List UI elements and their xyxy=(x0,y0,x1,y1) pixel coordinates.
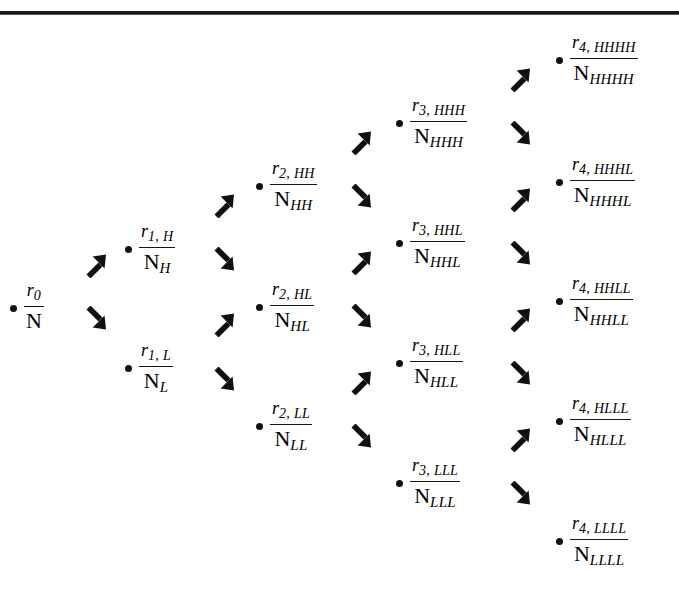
page-rule xyxy=(0,11,679,15)
numerator-subscript: 3, HHL xyxy=(419,223,463,238)
numerator-variable: r xyxy=(412,335,419,355)
numerator-variable: r xyxy=(412,215,419,235)
numerator-variable: r xyxy=(572,513,579,533)
tree-node-root: r0N xyxy=(10,281,44,335)
denominator-subscript: HHHL xyxy=(590,193,632,209)
tree-node-hh: r2, HHNHH xyxy=(256,159,317,213)
denominator-subscript: LL xyxy=(290,437,307,453)
denominator-subscript: HL xyxy=(290,318,310,334)
tree-arrow-h-hh xyxy=(211,192,237,218)
denominator-variable: N xyxy=(574,421,590,446)
tree-arrow-l-ll xyxy=(211,367,237,393)
node-fraction: r3, LLLNLLL xyxy=(410,456,460,510)
numerator-subscript: 4, HHHL xyxy=(579,162,633,177)
tree-node-hhhh: r4, HHHHNHHHH xyxy=(556,33,638,87)
node-numerator: r3, HHL xyxy=(410,216,465,241)
tree-node-hhll: r4, HHLLNHHLL xyxy=(556,274,633,328)
node-numerator: r4, HLLL xyxy=(570,394,631,419)
node-fraction: r2, HLNHL xyxy=(270,280,314,334)
denominator-subscript: H xyxy=(160,260,171,276)
numerator-variable: r xyxy=(272,279,279,299)
node-dot-icon xyxy=(125,365,132,372)
numerator-variable: r xyxy=(27,280,34,300)
node-denominator: NHH xyxy=(270,184,317,213)
numerator-subscript: 4, HHHH xyxy=(579,40,636,55)
tree-arrow-hh-hhl xyxy=(348,184,374,210)
denominator-variable: N xyxy=(574,182,590,207)
tree-arrow-hh-hhh xyxy=(348,129,374,155)
tree-arrow-hll-hhll xyxy=(507,306,533,332)
node-numerator: r2, HL xyxy=(270,280,314,305)
numerator-subscript: 2, HL xyxy=(279,287,312,302)
node-numerator: r4, LLLL xyxy=(570,514,628,539)
tree-node-hll: r3, HLLNHLL xyxy=(396,336,463,390)
denominator-subscript: LLLL xyxy=(590,552,625,568)
tree-arrow-ll-hll xyxy=(348,369,374,395)
node-denominator: N xyxy=(24,306,44,335)
node-numerator: r1, H xyxy=(139,222,175,247)
node-fraction: r3, HHLNHHL xyxy=(410,216,465,270)
denominator-subscript: HHL xyxy=(430,254,461,270)
tree-node-hlll: r4, HLLLNHLLL xyxy=(556,394,631,448)
node-dot-icon xyxy=(396,120,403,127)
node-denominator: NHHH xyxy=(410,121,467,150)
tree-node-hhl: r3, HHLNHHL xyxy=(396,216,465,270)
node-dot-icon xyxy=(396,360,403,367)
tree-arrow-ll-lll xyxy=(348,424,374,450)
node-dot-icon xyxy=(125,246,132,253)
denominator-subscript: HHH xyxy=(430,134,463,150)
tree-arrow-hl-hll xyxy=(348,304,374,330)
node-numerator: r4, HHHH xyxy=(570,33,638,58)
denominator-subscript: LLL xyxy=(430,494,456,510)
numerator-subscript: 3, LLL xyxy=(419,463,458,478)
node-denominator: NHLLL xyxy=(570,419,631,448)
numerator-subscript: 1, L xyxy=(148,348,171,363)
node-denominator: NLLLL xyxy=(570,539,628,568)
node-denominator: NH xyxy=(139,247,175,276)
tree-arrow-hhh-hhhh xyxy=(507,66,533,92)
node-denominator: NHL xyxy=(270,305,314,334)
tree-node-h: r1, HNH xyxy=(125,222,175,276)
tree-node-l: r1, LNL xyxy=(125,341,173,395)
tree-arrow-lll-hlll xyxy=(507,426,533,452)
numerator-subscript: 1, H xyxy=(148,229,173,244)
tree-arrow-l-hl xyxy=(211,311,237,337)
node-numerator: r4, HHLL xyxy=(570,274,633,299)
tree-node-llll: r4, LLLLNLLLL xyxy=(556,514,628,568)
denominator-subscript: L xyxy=(160,379,169,395)
node-dot-icon xyxy=(396,240,403,247)
tree-arrow-root-l xyxy=(83,306,109,332)
numerator-subscript: 2, LL xyxy=(279,406,310,421)
node-fraction: r4, HLLLNHLLL xyxy=(570,394,631,448)
node-fraction: r4, HHHHNHHHH xyxy=(570,33,638,87)
node-denominator: NHHHH xyxy=(570,58,638,87)
tree-node-ll: r2, LLNLL xyxy=(256,399,312,453)
node-dot-icon xyxy=(10,305,17,312)
numerator-variable: r xyxy=(141,340,148,360)
node-dot-icon xyxy=(396,480,403,487)
denominator-variable: N xyxy=(274,426,290,451)
node-dot-icon xyxy=(556,179,563,186)
node-numerator: r1, L xyxy=(139,341,173,366)
node-numerator: r3, HLL xyxy=(410,336,463,361)
denominator-variable: N xyxy=(414,243,430,268)
numerator-subscript: 4, HLLL xyxy=(579,401,629,416)
node-dot-icon xyxy=(556,57,563,64)
numerator-subscript: 2, HH xyxy=(279,166,315,181)
denominator-variable: N xyxy=(274,307,290,332)
denominator-variable: N xyxy=(414,123,430,148)
figure-canvas: r0Nr1, HNHr1, LNLr2, HHNHHr2, HLNHLr2, L… xyxy=(0,0,679,593)
node-dot-icon xyxy=(556,298,563,305)
node-denominator: NLLL xyxy=(410,481,460,510)
denominator-subscript: HLL xyxy=(430,374,458,390)
tree-arrow-hhh-hhhl xyxy=(507,121,533,147)
numerator-variable: r xyxy=(272,398,279,418)
node-fraction: r3, HHHNHHH xyxy=(410,96,467,150)
node-denominator: NLL xyxy=(270,424,312,453)
node-denominator: NHHLL xyxy=(570,299,633,328)
denominator-variable: N xyxy=(574,60,590,85)
numerator-subscript: 3, HHH xyxy=(419,103,465,118)
tree-node-hhhl: r4, HHHLNHHHL xyxy=(556,155,635,209)
denominator-variable: N xyxy=(574,301,590,326)
node-numerator: r2, HH xyxy=(270,159,317,184)
